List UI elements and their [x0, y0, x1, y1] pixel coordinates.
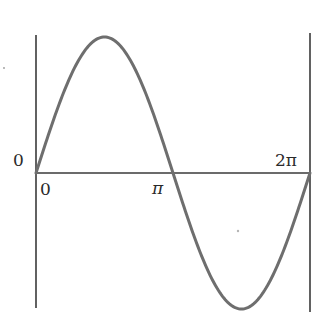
x-pi-label: π	[151, 178, 164, 198]
stray-dot-mark	[237, 230, 239, 232]
x-two-pi-label: 2π	[275, 150, 297, 170]
sine-diagram: 0 0 π 2π	[0, 0, 329, 328]
stray-dot-mark	[3, 67, 5, 69]
y-origin-label: 0	[13, 150, 24, 170]
x-origin-label: 0	[40, 179, 51, 199]
